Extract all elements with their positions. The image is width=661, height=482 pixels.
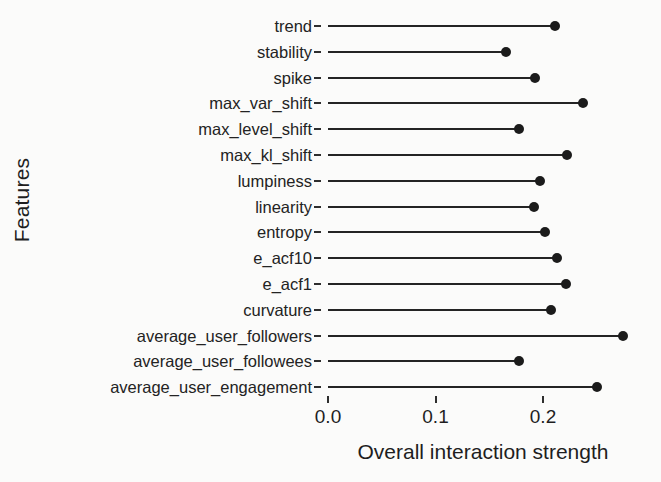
x-axis: 0.00.10.2 — [0, 0, 661, 482]
x-tick-mark — [542, 396, 544, 403]
x-tick-label-0-0: 0.0 — [315, 406, 341, 428]
x-tick-mark — [327, 396, 329, 403]
x-axis-title: Overall interaction strength — [328, 440, 638, 464]
chart-figure: Features trendstabilityspikemax_var_shif… — [0, 0, 661, 482]
x-tick-label-0-1: 0.1 — [422, 406, 448, 428]
x-tick-mark — [435, 396, 437, 403]
x-tick-label-0-2: 0.2 — [530, 406, 556, 428]
